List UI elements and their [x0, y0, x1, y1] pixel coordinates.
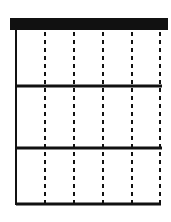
row-divider-lines [16, 86, 162, 148]
dashed-column-lines [45, 32, 160, 204]
header-bar [10, 18, 168, 30]
grid-diagram [0, 0, 171, 222]
